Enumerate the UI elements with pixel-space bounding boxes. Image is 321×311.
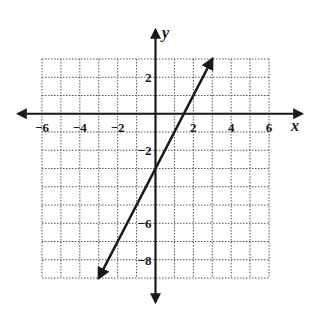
x-tick-label: 2 [190, 120, 197, 135]
y-axis-label: y [160, 24, 170, 42]
y-tick-label: 2 [145, 70, 152, 85]
x-tick-label: 4 [228, 120, 235, 135]
x-tick-label: −4 [73, 120, 87, 135]
y-tick-label: −8 [138, 253, 152, 268]
coordinate-plane: −6−4−22462−2−6−8 x y [0, 0, 321, 311]
x-tick-label: −6 [35, 120, 49, 135]
y-tick-label: −6 [138, 216, 152, 231]
y-tick-label: −2 [138, 143, 152, 158]
x-tick-label: −2 [111, 120, 125, 135]
x-tick-label: 6 [266, 120, 273, 135]
x-axis-label: x [290, 117, 299, 134]
